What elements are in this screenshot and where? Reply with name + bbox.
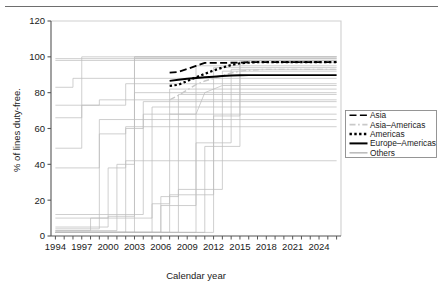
x-tick-label-1997: 1997 (71, 241, 92, 252)
y-tick-label-60: 60 (34, 123, 45, 134)
legend-label: Others (370, 148, 395, 158)
legend[interactable]: AsiaAsia–AmericasAmericasEurope–Americas… (346, 110, 437, 158)
x-tick-label-2024: 2024 (308, 241, 329, 252)
x-axis: 1994199720002003200620092012201520182021… (45, 236, 341, 252)
y-axis: 020406080100120 (29, 15, 51, 241)
x-tick-label-2000: 2000 (98, 241, 119, 252)
x-tick-label-2021: 2021 (282, 241, 303, 252)
y-tick-label-80: 80 (34, 87, 45, 98)
x-tick-label-2003: 2003 (124, 241, 145, 252)
x-axis-title: Calendar year (166, 270, 226, 281)
y-tick-label-100: 100 (29, 51, 45, 62)
x-tick-label-2015: 2015 (229, 241, 250, 252)
x-tick-label-1994: 1994 (45, 241, 66, 252)
x-tick-label-2012: 2012 (203, 241, 224, 252)
y-tick-label-0: 0 (40, 230, 45, 241)
x-tick-label-2018: 2018 (256, 241, 277, 252)
y-tick-label-40: 40 (34, 159, 45, 170)
y-tick-label-120: 120 (29, 15, 45, 26)
figure-root: 1994199720002003200620092012201520182021… (0, 0, 446, 285)
y-tick-label-20: 20 (34, 195, 45, 206)
x-tick-label-2009: 2009 (177, 241, 198, 252)
y-axis-title: % of lines duty-free. (11, 88, 22, 172)
x-tick-label-2006: 2006 (150, 241, 171, 252)
line-chart: 1994199720002003200620092012201520182021… (0, 0, 446, 285)
